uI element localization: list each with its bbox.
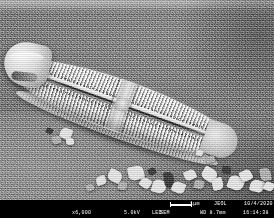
scale-label: 1µm — [190, 200, 200, 209]
sem-screenshot: 1µm JEOL 10/4/2020 x6,000 5.0kV LED SEM … — [0, 0, 274, 218]
acquisition-date: 10/4/2020 — [244, 200, 273, 209]
micrograph-canvas — [0, 0, 274, 200]
info-bar-row-top: 1µm JEOL 10/4/2020 — [0, 200, 274, 209]
sem-info-bar: 1µm JEOL 10/4/2020 x6,000 5.0kV LED SEM … — [0, 200, 274, 218]
scanline-texture — [0, 0, 274, 200]
manufacturer-label: JEOL — [214, 200, 227, 209]
acquisition-time: 16:14:38 — [243, 209, 269, 218]
detector-label-lower: SEM — [160, 209, 170, 218]
accel-voltage-label: 5.0kV — [124, 209, 140, 218]
magnification-label: x6,000 — [72, 209, 91, 218]
working-distance-label: WD 8.7mm — [200, 209, 226, 218]
info-bar-row-bottom: x6,000 5.0kV LED SEM WD 8.7mm 16:14:38 — [0, 209, 274, 218]
scale-bar — [170, 204, 192, 206]
